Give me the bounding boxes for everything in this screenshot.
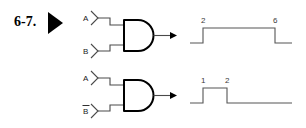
output-arrow-top — [170, 32, 177, 39]
input-a-wedge-top — [91, 11, 98, 25]
waveform-bottom-trace — [190, 88, 292, 103]
logic-diagram-svg: A B 2 6 A B — [0, 0, 306, 128]
input-b-wire-top — [98, 45, 123, 51]
input-b-wedge-top — [91, 44, 98, 58]
waveform-bottom: 1 2 — [190, 76, 292, 103]
and-gate-top — [124, 20, 154, 51]
waveform-top-trace — [190, 28, 292, 43]
input-a-label-bottom: A — [83, 74, 89, 83]
circuit-bottom: A B — [83, 71, 178, 118]
input-bbar-wire-bottom — [98, 105, 123, 111]
input-bbar-label-bottom: B — [83, 107, 88, 116]
input-a-wire-top — [98, 18, 123, 25]
input-b-label-top: B — [83, 47, 88, 56]
and-gate-bottom — [124, 80, 154, 111]
circuit-top: A B — [83, 11, 177, 58]
waveform-top-fall-label: 6 — [273, 16, 278, 25]
input-a-label-top: A — [83, 14, 89, 23]
input-a-wire-bottom — [98, 78, 123, 85]
waveform-bottom-fall-label: 2 — [225, 76, 230, 85]
input-a-wedge-bottom — [91, 71, 98, 85]
waveform-top: 2 6 — [190, 16, 292, 43]
output-arrow-bottom — [170, 92, 177, 99]
figure-canvas: 6-7. A B 2 6 — [0, 0, 306, 128]
input-bbar-wedge-bottom — [91, 104, 98, 118]
waveform-bottom-rise-label: 1 — [201, 76, 206, 85]
waveform-top-rise-label: 2 — [201, 16, 206, 25]
